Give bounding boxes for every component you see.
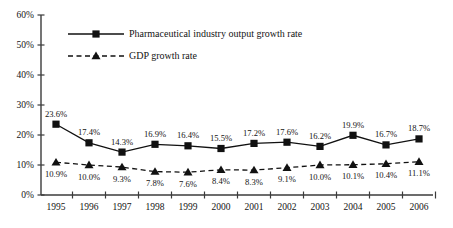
- y-axis: 0%10%20%30%40%50%60%: [17, 10, 45, 200]
- data-label-pharma-2002: 17.6%: [276, 127, 298, 137]
- legend-label-pharma: Pharmaceutical industry output growth ra…: [129, 28, 303, 39]
- data-label-layer: 23.6%17.4%14.3%16.9%16.4%15.5%17.2%17.6%…: [45, 109, 430, 189]
- y-tick-label: 10%: [17, 160, 35, 170]
- data-point-pharma-1996: [85, 139, 92, 146]
- x-tick-label: 2006: [410, 202, 429, 212]
- data-label-pharma-2003: 16.2%: [309, 131, 331, 141]
- data-label-gdp-1997: 9.3%: [113, 174, 131, 184]
- data-point-pharma-1995: [52, 121, 59, 128]
- x-tick-label: 1997: [113, 202, 132, 212]
- data-label-pharma-2001: 17.2%: [243, 128, 265, 138]
- data-point-pharma-2006: [415, 135, 422, 142]
- line-chart: 0%10%20%30%40%50%60% 1995199619971998199…: [0, 0, 453, 228]
- data-point-pharma-1998: [151, 141, 158, 148]
- chart-container: 0%10%20%30%40%50%60% 1995199619971998199…: [0, 0, 453, 228]
- x-tick-label: 2004: [344, 202, 363, 212]
- series-line-gdp: [56, 162, 419, 173]
- data-label-gdp-2006: 11.1%: [408, 168, 430, 178]
- data-label-gdp-2000: 8.4%: [212, 176, 230, 186]
- data-label-gdp-1996: 10.0%: [78, 172, 100, 182]
- data-point-pharma-2001: [250, 140, 257, 147]
- data-label-pharma-2005: 16.7%: [375, 129, 397, 139]
- data-point-pharma-2000: [217, 145, 224, 152]
- data-point-gdp-2000: [217, 165, 226, 173]
- legend-label-gdp: GDP growth rate: [129, 50, 198, 61]
- series-layer: [52, 121, 424, 176]
- data-label-gdp-1999: 7.6%: [179, 179, 197, 189]
- legend-marker-gdp: [92, 52, 101, 60]
- data-point-gdp-2002: [283, 163, 292, 171]
- x-tick-label: 1995: [47, 202, 66, 212]
- y-tick-label: 40%: [17, 70, 35, 80]
- data-label-pharma-1995: 23.6%: [45, 109, 67, 119]
- data-point-pharma-2004: [349, 132, 356, 139]
- y-tick-label: 30%: [17, 100, 35, 110]
- x-tick-label: 2001: [245, 202, 264, 212]
- data-label-pharma-2004: 19.9%: [342, 120, 364, 130]
- data-label-gdp-2005: 10.4%: [375, 170, 397, 180]
- x-axis: 1995199619971998199920002001200220032004…: [41, 192, 436, 213]
- data-label-pharma-1999: 16.4%: [177, 130, 199, 140]
- data-label-gdp-2004: 10.1%: [342, 171, 364, 181]
- y-tick-label: 50%: [17, 40, 35, 50]
- data-point-pharma-2005: [382, 141, 389, 148]
- data-point-pharma-1999: [184, 142, 191, 149]
- x-tick-label: 1996: [80, 202, 99, 212]
- data-label-gdp-1995: 10.9%: [45, 169, 67, 179]
- legend-marker-pharma: [92, 30, 99, 37]
- data-label-pharma-1997: 14.3%: [111, 137, 133, 147]
- x-tick-label: 1999: [179, 202, 198, 212]
- y-tick-label: 60%: [17, 10, 35, 20]
- x-tick-label: 2000: [212, 202, 231, 212]
- y-tick-label: 0%: [21, 190, 34, 200]
- data-point-gdp-1995: [52, 158, 61, 166]
- data-point-pharma-1997: [118, 149, 125, 156]
- data-label-pharma-1996: 17.4%: [78, 127, 100, 137]
- x-tick-label: 2005: [377, 202, 396, 212]
- x-tick-label: 2002: [278, 202, 297, 212]
- x-tick-label: 1998: [146, 202, 165, 212]
- data-point-gdp-2006: [415, 157, 424, 165]
- data-label-pharma-2006: 18.7%: [408, 123, 430, 133]
- x-tick-label: 2003: [311, 202, 330, 212]
- data-label-gdp-2002: 9.1%: [278, 174, 296, 184]
- y-tick-label: 20%: [17, 130, 35, 140]
- data-label-gdp-2001: 8.3%: [245, 177, 263, 187]
- data-point-pharma-2002: [283, 139, 290, 146]
- data-point-pharma-2003: [316, 143, 323, 150]
- data-label-pharma-2000: 15.5%: [210, 133, 232, 143]
- chart-legend: Pharmaceutical industry output growth ra…: [68, 28, 303, 61]
- data-label-gdp-1998: 7.8%: [146, 178, 164, 188]
- data-point-gdp-2001: [250, 166, 259, 174]
- data-label-pharma-1998: 16.9%: [144, 129, 166, 139]
- data-label-gdp-2003: 10.0%: [309, 172, 331, 182]
